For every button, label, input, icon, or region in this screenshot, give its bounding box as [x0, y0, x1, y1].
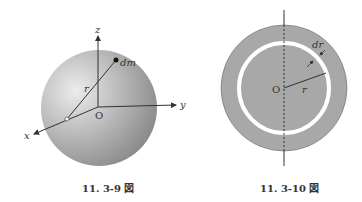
x-label: x	[24, 130, 30, 141]
origin-label: O	[95, 110, 103, 121]
z-label: z	[94, 24, 101, 35]
disk-figure: O r dr	[221, 10, 347, 166]
y-label: y	[179, 99, 186, 110]
figure-caption-2: 11. 3-10 図	[260, 180, 319, 195]
sphere	[41, 50, 157, 166]
figure-caption-1: 11. 3-9 図	[82, 180, 134, 195]
sphere-surface-point	[65, 117, 69, 121]
origin-label: O	[272, 84, 280, 95]
dm-label: dm	[120, 57, 136, 68]
dr-label: dr	[312, 39, 324, 50]
sphere-figure: z y x O r dm	[24, 24, 186, 166]
mass-element-dot	[114, 58, 119, 63]
diagram-canvas: z y x O r dm O r dr	[0, 0, 362, 202]
